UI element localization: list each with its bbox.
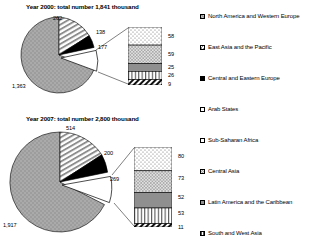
legend-item-south-west-asia[interactable]: South and West Asia	[200, 230, 262, 236]
bar-segment-south-west-asia	[128, 79, 162, 85]
legend-label-sub-saharan-africa: Sub-Saharan Africa	[208, 137, 258, 143]
legend-label-central-eastern-europe: Central and Eastern Europe	[208, 75, 280, 81]
bar-value-central-asia-2000: 25	[168, 64, 174, 70]
bar-value-arab-states-2000: 58	[168, 33, 174, 39]
bar-value-central-asia-2007: 52	[178, 194, 184, 200]
legend-label-arab-states: Arab States	[208, 106, 238, 112]
legend-item-north-america[interactable]: North America and Western Europe	[200, 13, 299, 19]
bar-segment-arab-states	[128, 27, 162, 45]
legend-label-central-asia: Central Asia	[208, 168, 239, 174]
legend-swatch-solid-black-icon	[200, 76, 205, 81]
value-label-central-eastern-europe-2000: 138	[96, 29, 105, 35]
pie-chart-2007	[8, 128, 120, 240]
bar-segment-sub-saharan-africa	[128, 45, 162, 63]
bar-segment-latin-america	[128, 71, 162, 79]
legend-swatch-fine-dots-icon	[200, 138, 205, 143]
pie-svg-2007	[8, 128, 120, 240]
stacked-bar-2007	[134, 147, 172, 227]
pie-svg-2000	[18, 14, 110, 96]
bar-segment-central-asia	[128, 64, 162, 72]
bar-value-south-west-asia-2007: 11	[178, 224, 184, 230]
legend-item-central-asia[interactable]: Central Asia	[200, 168, 239, 174]
legend-item-sub-saharan-africa[interactable]: Sub-Saharan Africa	[200, 137, 258, 143]
chart-title-2007: Year 2007: total number 2,800 thousand	[26, 115, 139, 122]
value-label-north-america-2000: 1,363	[12, 83, 26, 89]
pie-chart-2000	[18, 14, 110, 96]
legend: North America and Western Europe East As…	[196, 0, 324, 245]
legend-item-east-asia[interactable]: East Asia and the Pacific	[200, 44, 272, 50]
value-label-arab-states-2000: 177	[98, 44, 107, 50]
bar-value-latin-america-2000: 26	[168, 72, 174, 78]
legend-swatch-vertical-lines-icon	[200, 231, 205, 236]
legend-label-south-west-asia: South and West Asia	[208, 230, 262, 236]
legend-swatch-diagonal-stripes-icon	[200, 45, 205, 50]
legend-label-latin-america: Latin America and the Caribbean	[208, 199, 292, 205]
bar-segment-latin-america	[134, 208, 172, 224]
legend-swatch-checker-icon	[200, 169, 205, 174]
value-label-arab-states-2007: 269	[110, 176, 119, 182]
value-label-east-asia-2000: 262	[53, 15, 62, 21]
legend-swatch-dots-gray-icon	[200, 14, 205, 19]
legend-label-east-asia: East Asia and the Pacific	[208, 44, 272, 50]
bar-value-sub-saharan-africa-2007: 73	[178, 175, 184, 181]
legend-swatch-solid-gray-icon	[200, 200, 205, 205]
bar-segment-sub-saharan-africa	[134, 171, 172, 193]
bar-value-arab-states-2007: 80	[178, 153, 184, 159]
legend-swatch-solid-white-icon	[200, 107, 205, 112]
charts-region: Year 2000: total number 1,841 thousand	[0, 0, 196, 245]
bar-value-sub-saharan-africa-2000: 59	[168, 51, 174, 57]
bar-segment-south-west-asia	[134, 224, 172, 227]
value-label-north-america-2007: 1,917	[3, 222, 17, 228]
bar-value-south-west-asia-2000: 9	[168, 81, 171, 87]
legend-item-latin-america[interactable]: Latin America and the Caribbean	[200, 199, 292, 205]
stacked-bar-2000	[128, 27, 162, 85]
bar-value-latin-america-2007: 53	[178, 210, 184, 216]
legend-label-north-america: North America and Western Europe	[208, 13, 299, 19]
legend-item-central-eastern-europe[interactable]: Central and Eastern Europe	[200, 75, 280, 81]
bar-segment-arab-states	[134, 147, 172, 171]
legend-item-arab-states[interactable]: Arab States	[200, 106, 238, 112]
chart-title-2000: Year 2000: total number 1,841 thousand	[26, 3, 139, 10]
value-label-east-asia-2007: 514	[66, 125, 75, 131]
bar-segment-central-asia	[134, 193, 172, 209]
value-label-central-eastern-europe-2007: 200	[104, 150, 113, 156]
